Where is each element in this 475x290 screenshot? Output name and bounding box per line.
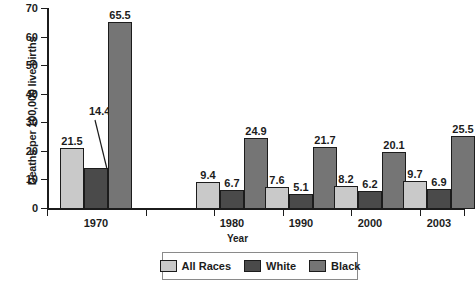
bar-group: 21.514.465.5 <box>60 8 132 209</box>
bar-chart: Deaths per 100,000 live births 010203040… <box>0 0 475 290</box>
x-axis-tick <box>214 209 215 216</box>
y-axis-tick-label: 70 <box>14 3 38 14</box>
bar-all-races-1990[interactable]: 7.6 <box>265 187 289 209</box>
y-axis-tick-label-wrap: 20 <box>8 146 38 157</box>
y-axis-tick-label-wrap: 60 <box>8 32 38 43</box>
y-axis-tick <box>41 151 47 152</box>
y-axis-line <box>47 8 49 209</box>
bar-white-2000[interactable]: 6.2 <box>358 191 382 209</box>
bar-value-label: 7.6 <box>269 175 284 186</box>
x-axis-tick <box>420 209 421 216</box>
legend-swatch-white <box>244 260 261 272</box>
y-axis-tick-label-wrap: 0 <box>8 203 38 214</box>
bar-value-label: 20.1 <box>383 140 404 151</box>
chart-legend: All Races White Black <box>162 252 358 280</box>
bar-all-races-2000[interactable]: 8.2 <box>334 186 358 209</box>
legend-swatch-black <box>309 260 326 272</box>
bar-white-1970[interactable]: 14.4 <box>84 168 108 209</box>
x-axis-title: Year <box>0 233 475 244</box>
y-axis-tick <box>41 94 47 95</box>
x-axis-category-1970: 1970 <box>50 218 142 229</box>
bar-group-bars: 9.46.724.9 <box>196 8 268 209</box>
y-axis-tick-label: 40 <box>14 89 38 100</box>
legend-item-all-races: All Races <box>160 260 232 272</box>
bar-value-label: 9.7 <box>407 169 422 180</box>
y-axis-tick-label: 60 <box>14 32 38 43</box>
y-axis-tick <box>41 65 47 66</box>
bar-value-label: 25.5 <box>452 124 473 135</box>
x-axis-tick <box>47 209 48 216</box>
bar-value-label: 6.2 <box>362 179 377 190</box>
y-axis-tick <box>41 37 47 38</box>
y-axis-tick-label: 20 <box>14 146 38 157</box>
legend-label-black: Black <box>331 261 360 272</box>
bar-value-label: 6.7 <box>224 178 239 189</box>
bar-all-races-1980[interactable]: 9.4 <box>196 182 220 209</box>
bar-value-label: 9.4 <box>200 170 215 181</box>
bar-group-bars: 7.65.121.7 <box>265 8 337 209</box>
bar-white-1980[interactable]: 6.7 <box>220 190 244 209</box>
y-axis-tick-label-wrap: 30 <box>8 117 38 128</box>
legend-item-white: White <box>244 260 296 272</box>
y-axis-tick-label-wrap: 40 <box>8 89 38 100</box>
bar-white-1990[interactable]: 5.1 <box>289 194 313 209</box>
legend-item-black: Black <box>309 260 360 272</box>
bar-group: 8.26.220.1 <box>334 8 406 209</box>
x-axis-category-2003: 2003 <box>393 218 475 229</box>
y-axis-tick-label: 0 <box>14 203 38 214</box>
bar-group: 7.65.121.7 <box>265 8 337 209</box>
y-axis-tick-label-wrap: 50 <box>8 60 38 71</box>
bar-all-races-1970[interactable]: 21.5 <box>60 148 84 209</box>
bar-value-label: 24.9 <box>245 126 266 137</box>
bar-value-label: 65.5 <box>109 10 130 21</box>
y-axis-tick <box>41 8 47 9</box>
y-axis-tick <box>41 179 47 180</box>
bar-group: 9.76.925.5 <box>403 8 475 209</box>
y-axis-tick-label: 50 <box>14 60 38 71</box>
y-axis-tick-label: 10 <box>14 174 38 185</box>
bar-value-label: 21.7 <box>314 135 335 146</box>
bar-white-2003[interactable]: 6.9 <box>427 189 451 209</box>
y-axis-tick <box>41 122 47 123</box>
y-axis-tick-label-wrap: 10 <box>8 174 38 185</box>
legend-label-white: White <box>266 261 296 272</box>
y-axis-tick-label-wrap: 70 <box>8 3 38 14</box>
bar-value-label: 21.5 <box>61 136 82 147</box>
legend-label-all-races: All Races <box>182 261 232 272</box>
bar-group-bars: 9.76.925.5 <box>403 8 475 209</box>
x-axis-tick <box>351 209 352 216</box>
x-axis-tick <box>283 209 284 216</box>
y-axis-tick-label: 30 <box>14 117 38 128</box>
bar-value-label: 6.9 <box>431 177 446 188</box>
bar-value-label: 5.1 <box>293 182 308 193</box>
bar-black-1970[interactable]: 65.5 <box>108 22 132 209</box>
bar-black-2003[interactable]: 25.5 <box>451 136 475 209</box>
bar-group: 9.46.724.9 <box>196 8 268 209</box>
legend-swatch-all-races <box>160 260 177 272</box>
bar-group-bars: 21.514.465.5 <box>60 8 132 209</box>
bar-all-races-2003[interactable]: 9.7 <box>403 181 427 209</box>
x-axis-tick <box>146 209 147 216</box>
x-axis-tick <box>464 209 465 216</box>
bar-value-label: 8.2 <box>338 174 353 185</box>
bar-group-bars: 8.26.220.1 <box>334 8 406 209</box>
